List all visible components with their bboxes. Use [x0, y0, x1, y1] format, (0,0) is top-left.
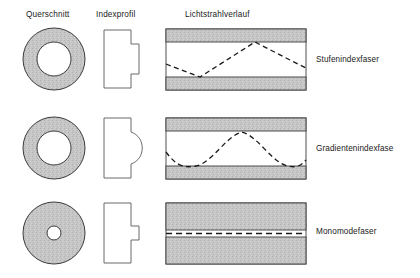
index-profile-single-mode: [104, 203, 139, 263]
ray-path-single-mode: [166, 203, 306, 264]
ray-path-graded-index: [166, 118, 306, 179]
cross-section-graded-index: [23, 117, 85, 179]
fiber-comparison-diagram: Querschnitt Indexprofil Lichtstrahlverla…: [0, 0, 420, 278]
cross-section-step-index: [23, 28, 85, 90]
row-label-graded-index: Gradientenindexfase: [316, 144, 393, 153]
diagram-graphics: [0, 0, 420, 278]
cross-section-single-mode: [23, 202, 85, 264]
row-label-step-index: Stufenindexfaser: [316, 55, 379, 64]
index-profile-step-index: [104, 30, 139, 88]
index-profile-graded-index: [104, 118, 142, 178]
ray-path-step-index: [166, 29, 306, 90]
row-label-single-mode: Monomodefaser: [316, 227, 376, 236]
